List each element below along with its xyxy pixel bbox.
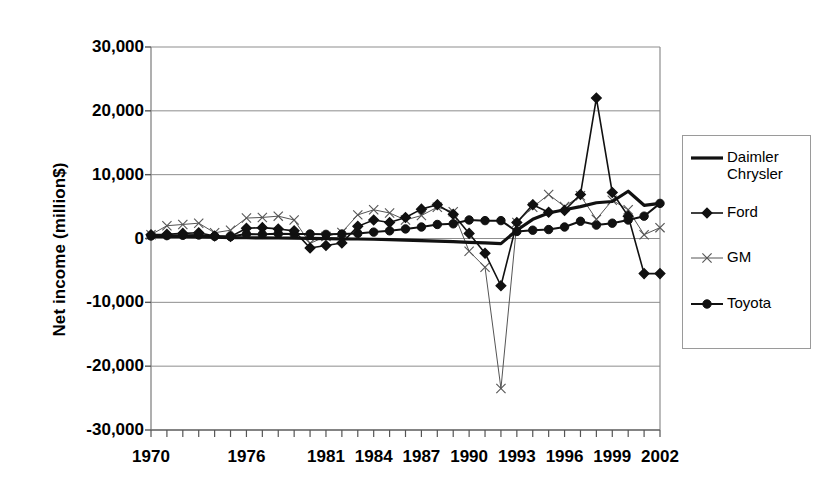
data-marker-x bbox=[369, 205, 378, 214]
data-marker-circle bbox=[592, 221, 600, 229]
data-marker-diamond bbox=[655, 269, 665, 279]
legend-key-diamond-icon bbox=[689, 204, 725, 222]
data-marker-x bbox=[465, 247, 474, 256]
data-marker-diamond bbox=[401, 213, 411, 223]
legend-key-circle-icon bbox=[689, 295, 725, 313]
legend-item-ford[interactable]: Ford bbox=[689, 203, 809, 222]
data-marker-circle bbox=[656, 199, 664, 207]
data-marker-diamond bbox=[258, 223, 268, 233]
data-marker-diamond bbox=[639, 269, 649, 279]
x-tick-label: 1981 bbox=[307, 447, 345, 467]
data-marker-circle bbox=[576, 217, 584, 225]
data-marker-x bbox=[385, 208, 394, 217]
data-marker-diamond bbox=[385, 218, 395, 228]
data-marker-circle bbox=[449, 220, 457, 228]
legend-key-none-icon bbox=[689, 149, 725, 167]
legend-item-gm[interactable]: GM bbox=[689, 248, 809, 267]
x-tick-label: 1990 bbox=[450, 447, 488, 467]
data-marker-circle bbox=[640, 212, 648, 220]
data-marker-circle bbox=[465, 216, 473, 224]
x-tick-label: 1987 bbox=[402, 447, 440, 467]
legend-key-x-icon bbox=[689, 249, 725, 267]
x-tick-label: 1993 bbox=[498, 447, 536, 467]
data-marker-circle bbox=[322, 230, 330, 238]
data-marker-diamond bbox=[592, 93, 602, 103]
data-marker-circle bbox=[481, 216, 489, 224]
data-marker-diamond bbox=[369, 215, 379, 225]
legend-item-toyota[interactable]: Toyota bbox=[689, 294, 809, 313]
data-marker-x bbox=[544, 190, 553, 199]
x-tick-label: 2002 bbox=[641, 447, 679, 467]
data-marker-circle bbox=[497, 216, 505, 224]
chart-page: Net income (million$) 30,00020,00010,000… bbox=[0, 0, 837, 499]
chart-legend: Daimler ChryslerFordGMToyota bbox=[682, 135, 811, 349]
legend-label: Daimler Chrysler bbox=[727, 148, 783, 182]
data-marker-x bbox=[639, 230, 648, 239]
data-marker-circle bbox=[703, 300, 711, 308]
data-marker-diamond bbox=[496, 281, 506, 291]
x-tick-label: 1976 bbox=[228, 447, 266, 467]
data-marker-circle bbox=[544, 225, 552, 233]
series-ford bbox=[146, 93, 665, 290]
data-marker-circle bbox=[369, 228, 377, 236]
data-marker-circle bbox=[433, 220, 441, 228]
data-marker-diamond bbox=[321, 241, 331, 251]
data-marker-circle bbox=[529, 226, 537, 234]
x-tick-label: 1970 bbox=[132, 447, 170, 467]
data-marker-x bbox=[353, 210, 362, 219]
data-marker-circle bbox=[560, 223, 568, 231]
legend-label: Toyota bbox=[727, 294, 771, 311]
legend-label: Ford bbox=[727, 203, 758, 220]
data-marker-diamond bbox=[702, 208, 712, 218]
data-marker-circle bbox=[608, 219, 616, 227]
x-tick-label: 1999 bbox=[593, 447, 631, 467]
data-marker-circle bbox=[306, 230, 314, 238]
data-marker-x bbox=[290, 215, 299, 224]
x-tick-label: 1984 bbox=[355, 447, 393, 467]
x-axis-tick-labels: 1970197619811984198719901993199619992002 bbox=[0, 447, 837, 473]
x-tick-label: 1996 bbox=[546, 447, 584, 467]
legend-item-daimler-chrysler[interactable]: Daimler Chrysler bbox=[689, 148, 809, 182]
data-marker-circle bbox=[417, 223, 425, 231]
legend-label: GM bbox=[727, 248, 751, 265]
data-marker-circle bbox=[401, 225, 409, 233]
data-marker-circle bbox=[338, 230, 346, 238]
data-marker-diamond bbox=[607, 188, 617, 198]
